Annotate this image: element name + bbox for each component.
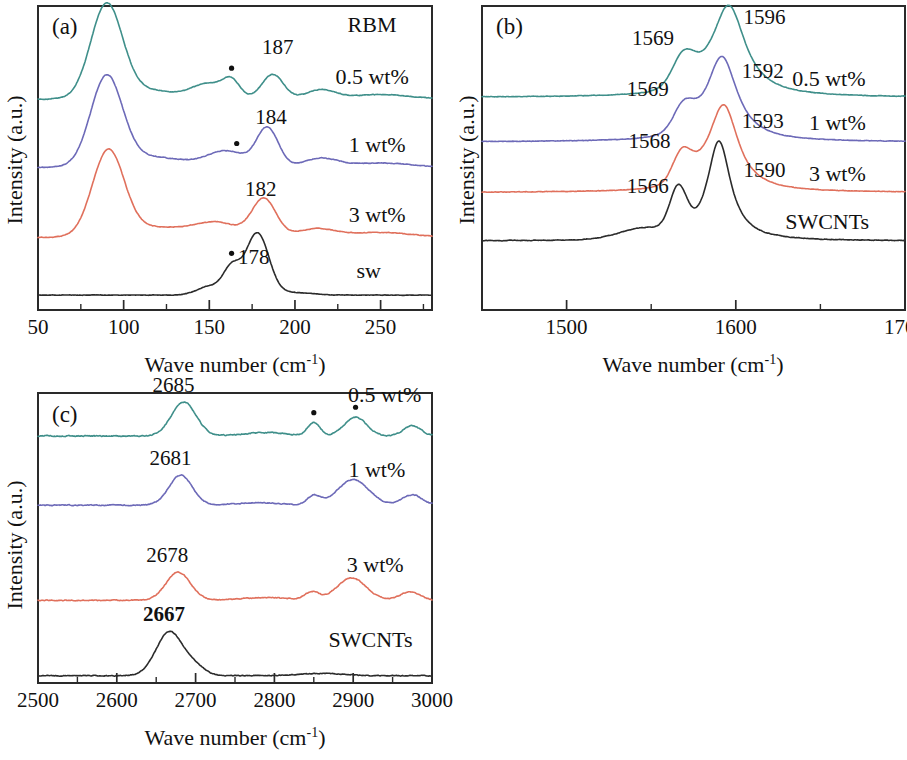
- panel-b-tag: (b): [496, 14, 523, 39]
- panel-a-tag: (a): [52, 14, 78, 39]
- peak-marker-dot: [311, 410, 316, 415]
- x-tick-label: 250: [365, 315, 397, 339]
- series-label: 0.5 wt%: [792, 66, 865, 91]
- peak-label: 1569: [632, 26, 674, 50]
- x-tick-label: 2800: [253, 688, 295, 712]
- peak-label: 1592: [742, 59, 784, 83]
- panel-a-corner-label: RBM: [348, 12, 397, 37]
- peak-label: 2667: [143, 602, 185, 626]
- panel-b-plot-frame: [482, 6, 905, 310]
- peak-label: 184: [255, 105, 287, 129]
- series-label: 3 wt%: [809, 161, 866, 186]
- panel-c-yaxis-title: Intensity (a.u.): [2, 481, 27, 610]
- x-tick-label: 100: [108, 315, 140, 339]
- raman-spectra-figure: Intensity (a.u.) (a) RBM 50100150200250 …: [0, 0, 907, 760]
- x-tick-label: 1700: [884, 315, 907, 339]
- series-label: 1 wt%: [349, 132, 406, 157]
- peak-label: 2685: [153, 373, 195, 397]
- peak-marker-dot: [229, 66, 234, 71]
- panel-a: Intensity (a.u.) (a) RBM 50100150200250 …: [0, 0, 460, 380]
- panel-c-xaxis-title: Wave number (cm-1): [145, 725, 326, 750]
- peak-label: 1566: [627, 174, 669, 198]
- svg-text:Wave number (cm-1): Wave number (cm-1): [603, 352, 784, 377]
- x-tick-label: 2500: [17, 688, 59, 712]
- panel-c-tick-labels: 250026002700280029003000: [17, 688, 453, 712]
- peak-label: 1593: [742, 109, 784, 133]
- svg-text:Intensity (a.u.): Intensity (a.u.): [2, 481, 27, 610]
- panel-a-yaxis-title: Intensity (a.u.): [2, 96, 27, 225]
- panel-b-xaxis-title: Wave number (cm-1): [603, 352, 784, 377]
- svg-text:Intensity (a.u.): Intensity (a.u.): [454, 96, 479, 225]
- panel-c-annotations: 0.5 wt%26851 wt%26813 wt%2678SWCNTs2667: [143, 373, 421, 652]
- peak-label: 187: [262, 35, 294, 59]
- panel-a-tick-labels: 50100150200250: [28, 315, 397, 339]
- peak-marker-dot: [234, 141, 239, 146]
- panel-b-ticks: [482, 300, 905, 310]
- peak-label: 2678: [146, 543, 188, 567]
- series-label: 0.5 wt%: [348, 382, 421, 407]
- peak-label: 1590: [744, 158, 786, 182]
- peak-marker-dot: [229, 251, 234, 256]
- panel-b-annotations: 0.5 wt%159615691 wt%159215693 wt%1593156…: [627, 5, 869, 234]
- peak-label: 1569: [627, 77, 669, 101]
- series-label: 1 wt%: [809, 110, 866, 135]
- series-label: SWCNTs: [785, 209, 869, 234]
- panel-b-tick-labels: 150016001700: [546, 315, 907, 339]
- series-label: sw: [356, 258, 381, 283]
- x-tick-label: 1500: [546, 315, 588, 339]
- peak-label: 1568: [629, 129, 671, 153]
- x-tick-label: 3000: [411, 688, 453, 712]
- x-tick-label: 50: [28, 315, 49, 339]
- spectrum-curve-05wt: [38, 402, 432, 437]
- panel-b-yaxis-title: Intensity (a.u.): [454, 96, 479, 225]
- series-label: SWCNTs: [329, 627, 413, 652]
- svg-text:Wave number (cm-1): Wave number (cm-1): [145, 725, 326, 750]
- peak-label: 182: [245, 177, 277, 201]
- panel-a-ticks: [38, 300, 423, 310]
- peak-label: 1596: [744, 5, 786, 29]
- series-label: 3 wt%: [347, 552, 404, 577]
- svg-text:Intensity (a.u.): Intensity (a.u.): [2, 96, 27, 225]
- series-label: 0.5 wt%: [335, 64, 408, 89]
- x-tick-label: 1600: [715, 315, 757, 339]
- x-tick-label: 2700: [175, 688, 217, 712]
- x-tick-label: 2600: [96, 688, 138, 712]
- series-label: 3 wt%: [349, 202, 406, 227]
- peak-label: 2681: [149, 446, 191, 470]
- panel-c-ticks: [38, 673, 432, 683]
- peak-label: 178: [238, 245, 270, 269]
- panel-c-tag: (c): [52, 402, 78, 427]
- x-tick-label: 200: [279, 315, 311, 339]
- panel-c: Intensity (a.u.) (c) 2500260027002800290…: [0, 380, 460, 760]
- x-tick-label: 2900: [332, 688, 374, 712]
- panel-b: Intensity (a.u.) (b) 150016001700 0.5 wt…: [460, 0, 907, 380]
- series-label: 1 wt%: [348, 457, 405, 482]
- x-tick-label: 150: [194, 315, 226, 339]
- peak-marker-dot: [353, 405, 358, 410]
